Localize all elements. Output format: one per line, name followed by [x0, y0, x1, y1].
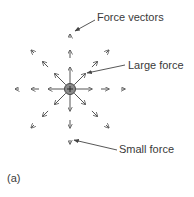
large-force-vector-arrow — [54, 93, 65, 104]
medium-force-vector-arrow — [92, 111, 98, 117]
panel-label: (a) — [7, 172, 20, 184]
large-force-vector-arrow — [74, 73, 85, 84]
medium-force-vector-arrow — [42, 111, 48, 117]
small-force-vector-arrow — [31, 50, 34, 53]
small-force-label: Small force — [119, 143, 174, 155]
medium-force-vector-arrow — [42, 61, 48, 67]
small-force-vector-arrow — [31, 125, 34, 128]
small-force-vector-arrow — [106, 50, 109, 53]
electric-field-diagram — [0, 0, 194, 197]
large-force-vector-arrow — [54, 73, 65, 84]
small-force-leader — [74, 140, 117, 150]
force-vectors-label: Force vectors — [97, 11, 164, 23]
force-vectors-leader — [75, 20, 95, 31]
medium-force-vector-arrow — [92, 61, 98, 67]
small-force-vector-arrow — [106, 125, 109, 128]
large-force-vector-arrow — [74, 93, 85, 104]
positive-charge — [65, 84, 76, 95]
leader-lines — [74, 20, 125, 150]
large-force-label: Large force — [128, 59, 184, 71]
